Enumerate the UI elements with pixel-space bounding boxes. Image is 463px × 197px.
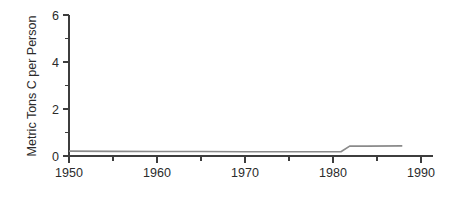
x-tick-label-1970: 1970 <box>231 166 259 180</box>
y-tick-label-4: 4 <box>52 56 59 70</box>
chart-figure: 0 2 4 6 1950 1960 1970 1980 1990 Metric … <box>0 0 463 197</box>
y-tick-label-2: 2 <box>52 103 59 117</box>
y-tick-label-6: 6 <box>52 9 59 23</box>
x-tick-label-1980: 1980 <box>319 166 347 180</box>
x-tick-label-1960: 1960 <box>143 166 171 180</box>
y-tick-label-0: 0 <box>52 150 59 164</box>
line-chart-svg: 0 2 4 6 1950 1960 1970 1980 1990 Metric … <box>0 0 463 197</box>
x-tick-label-1950: 1950 <box>55 166 83 180</box>
y-axis-title: Metric Tons C per Person <box>25 16 39 157</box>
x-tick-label-1990: 1990 <box>407 166 435 180</box>
